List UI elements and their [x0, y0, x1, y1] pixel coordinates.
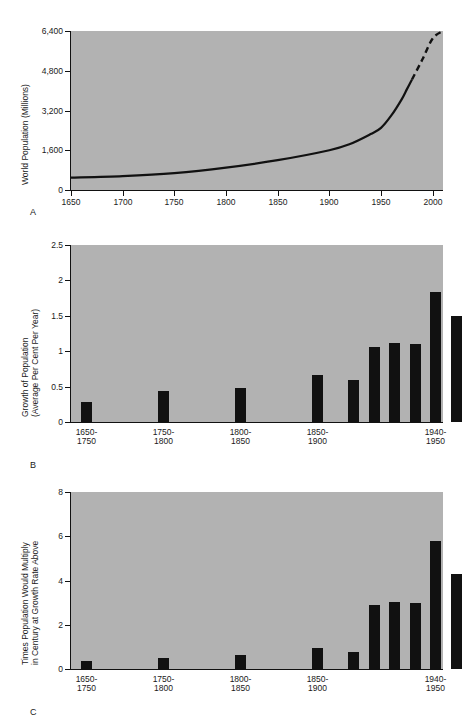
y-axis-tick [65, 351, 70, 352]
y-axis-line [70, 492, 71, 670]
y-axis-title: Growth of Population(Average Per Cent Pe… [20, 309, 40, 417]
x-axis-tick-label: 1940-1950 [425, 675, 447, 693]
x-axis-line [70, 669, 443, 670]
x-axis-tick-label: 1650-1750 [76, 675, 98, 693]
bar [235, 655, 246, 669]
y-axis-tick-label: 2 [27, 276, 63, 285]
bar [389, 343, 400, 422]
panel-c-times-population-multiply: 02468Times Population Would Multiplyin C… [0, 480, 463, 727]
bar [81, 402, 92, 423]
x-axis-tick-label: 1940-1950 [425, 428, 447, 446]
x-axis-tick-label-line: 1800 [153, 684, 175, 693]
projected-population-line [412, 31, 443, 79]
y-axis-tick-label: 0 [27, 418, 63, 427]
y-axis-tick-label: 0 [27, 665, 63, 674]
population-curve [0, 0, 463, 232]
panel-b-growth-of-population: 00.511.522.5Growth of Population(Average… [0, 232, 463, 480]
x-axis-tick-label: 1750-1800 [153, 675, 175, 693]
plot-background [71, 492, 443, 669]
plot-background [71, 245, 443, 422]
y-axis-tick-label: 2.5 [27, 241, 63, 250]
y-axis-tick [65, 669, 70, 670]
bar [430, 292, 441, 422]
y-axis-tick [65, 492, 70, 493]
panel-letter-b: B [30, 460, 36, 470]
y-axis-title-line: (Average Per Cent Per Year) [30, 309, 40, 417]
x-axis-tick-label: 1750-1800 [153, 428, 175, 446]
y-axis-tick-label: 6 [27, 532, 63, 541]
y-axis-tick [65, 316, 70, 317]
y-axis-tick [65, 387, 70, 388]
bar [158, 391, 169, 422]
y-axis-title-line: in Century at Growth Rate Above [30, 541, 40, 665]
x-axis-tick-label-line: 1750 [76, 684, 98, 693]
bar [158, 658, 169, 669]
bar [81, 661, 92, 669]
x-axis-tick-label-line: 1950 [425, 437, 447, 446]
panel-letter-c: C [30, 707, 37, 717]
y-axis-tick [65, 245, 70, 246]
bar [410, 344, 421, 422]
x-axis-tick-label-line: 1850 [230, 684, 252, 693]
y-axis-tick [65, 422, 70, 423]
bar [430, 541, 441, 669]
x-axis-tick-label: 1650-1750 [76, 428, 98, 446]
panel-letter-a: A [30, 207, 36, 217]
x-axis-tick-label: 1850-1900 [307, 428, 329, 446]
y-axis-line [70, 245, 71, 423]
y-axis-title-line: Growth of Population [20, 309, 30, 417]
y-axis-tick [65, 536, 70, 537]
bar [389, 602, 400, 670]
x-axis-tick-label-line: 1950 [425, 684, 447, 693]
x-axis-tick-label: 1800-1850 [230, 675, 252, 693]
bar [348, 380, 359, 423]
bar [348, 652, 359, 669]
x-axis-tick-label: 1850-1900 [307, 675, 329, 693]
x-axis-tick-label: 1800-1850 [230, 428, 252, 446]
y-axis-title: Times Population Would Multiplyin Centur… [20, 541, 40, 665]
x-axis-line [70, 422, 443, 423]
historical-population-line [71, 79, 412, 177]
y-axis-title-line: Times Population Would Multiply [20, 541, 30, 665]
bar [312, 648, 323, 670]
bar [369, 605, 380, 669]
panel-a-world-population: 01,6003,2004,8006,400World Population (M… [0, 0, 463, 232]
bar [410, 603, 421, 669]
x-axis-tick-label-line: 1900 [307, 684, 329, 693]
x-axis-tick-label-line: 1750 [76, 437, 98, 446]
y-axis-tick [65, 625, 70, 626]
y-axis-tick [65, 581, 70, 582]
x-axis-tick-label-line: 1900 [307, 437, 329, 446]
bar [451, 574, 462, 669]
bar [369, 347, 380, 422]
bar [312, 375, 323, 422]
y-axis-tick [65, 280, 70, 281]
x-axis-tick-label-line: 1800 [153, 437, 175, 446]
bar [235, 388, 246, 422]
bar [451, 316, 462, 422]
y-axis-tick-label: 8 [27, 488, 63, 497]
x-axis-tick-label-line: 1850 [230, 437, 252, 446]
